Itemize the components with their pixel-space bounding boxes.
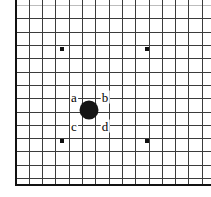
grid-faint-lines: [16, 6, 211, 179]
grid-vertical-lines: [29, 0, 202, 185]
go-board-diagram: a b c d: [0, 0, 211, 197]
point-label-a: a: [70, 91, 78, 104]
star-point-top-right: [145, 47, 149, 51]
point-label-c: c: [70, 120, 78, 133]
point-label-d: d: [101, 120, 110, 133]
board-border: [15, 0, 211, 186]
grid-horizontal-lines: [16, 19, 211, 179]
star-point-top-left: [60, 47, 64, 51]
black-stone: [80, 101, 99, 120]
star-point-bottom-right: [145, 139, 149, 143]
point-label-b: b: [101, 91, 110, 104]
star-point-bottom-left: [60, 139, 64, 143]
stones: [80, 101, 99, 120]
